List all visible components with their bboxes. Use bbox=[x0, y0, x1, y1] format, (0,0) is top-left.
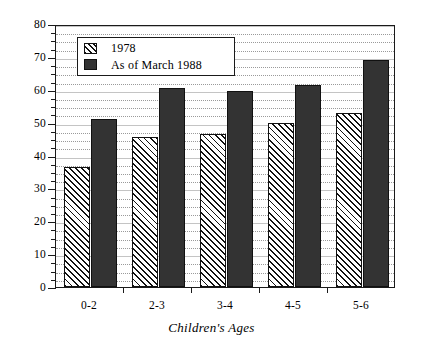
y-tick-minor bbox=[51, 214, 56, 215]
y-tick-minor bbox=[51, 239, 56, 240]
bar-0-2-1978 bbox=[64, 167, 90, 287]
y-tick-minor bbox=[51, 132, 56, 133]
y-tick-minor bbox=[51, 230, 56, 231]
y-tick-minor bbox=[51, 33, 56, 34]
y-tick-minor bbox=[51, 140, 56, 141]
y-tick-major bbox=[48, 157, 56, 158]
y-tick-minor bbox=[51, 206, 56, 207]
y-tick-label: 60 bbox=[20, 85, 46, 97]
legend-item: As of March 1988 bbox=[84, 58, 228, 73]
bar-4-5-as-of-march-1988 bbox=[295, 85, 321, 287]
y-tick-minor bbox=[51, 148, 56, 149]
y-tick-major bbox=[48, 255, 56, 256]
x-tick-label: 4-5 bbox=[285, 300, 301, 312]
chart-legend: 1978 As of March 1988 bbox=[77, 37, 235, 76]
bar-chart: Children's Ages 1978 As of March 1988 01… bbox=[0, 0, 423, 347]
y-tick-label: 80 bbox=[20, 19, 46, 31]
y-tick-label: 40 bbox=[20, 151, 46, 163]
x-tick bbox=[259, 288, 260, 293]
bar-2-3-1978 bbox=[132, 137, 158, 287]
y-tick-minor bbox=[51, 50, 56, 51]
y-tick-minor bbox=[51, 83, 56, 84]
y-tick-minor bbox=[51, 74, 56, 75]
y-tick-minor bbox=[51, 41, 56, 42]
y-tick-minor bbox=[51, 198, 56, 199]
x-tick-label: 3-4 bbox=[217, 300, 233, 312]
y-tick-minor bbox=[51, 173, 56, 174]
y-tick-major bbox=[48, 124, 56, 125]
y-tick-minor bbox=[51, 99, 56, 100]
y-tick-label: 70 bbox=[20, 52, 46, 64]
bar-3-4-1978 bbox=[200, 134, 226, 287]
y-tick-major bbox=[48, 91, 56, 92]
legend-label-1988: As of March 1988 bbox=[111, 59, 202, 71]
y-tick-major bbox=[48, 288, 56, 289]
y-tick-major bbox=[48, 189, 56, 190]
x-tick bbox=[123, 288, 124, 293]
bar-4-5-1978 bbox=[268, 123, 294, 287]
y-tick-minor bbox=[51, 280, 56, 281]
y-tick-minor bbox=[51, 66, 56, 67]
legend-swatch-1988-icon bbox=[84, 59, 97, 70]
x-tick bbox=[327, 288, 328, 293]
y-tick-minor bbox=[51, 263, 56, 264]
y-tick-major bbox=[48, 25, 56, 26]
y-tick-minor bbox=[51, 115, 56, 116]
y-tick-minor bbox=[51, 272, 56, 273]
y-tick-minor bbox=[51, 181, 56, 182]
bar-3-4-as-of-march-1988 bbox=[227, 91, 253, 287]
x-tick-label: 5-6 bbox=[353, 300, 369, 312]
bar-0-2-as-of-march-1988 bbox=[91, 119, 117, 287]
y-tick-minor bbox=[51, 165, 56, 166]
y-tick-minor bbox=[51, 247, 56, 248]
y-tick-label: 20 bbox=[20, 217, 46, 229]
x-tick-label: 0-2 bbox=[81, 300, 97, 312]
y-tick-major bbox=[48, 222, 56, 223]
legend-label-1978: 1978 bbox=[111, 42, 136, 54]
legend-swatch-1978-icon bbox=[84, 43, 97, 54]
y-tick-label: 30 bbox=[20, 184, 46, 196]
bar-5-6-as-of-march-1988 bbox=[363, 60, 389, 287]
bar-2-3-as-of-march-1988 bbox=[159, 88, 185, 287]
x-axis-title: Children's Ages bbox=[0, 320, 423, 336]
y-tick-major bbox=[48, 58, 56, 59]
x-tick bbox=[191, 288, 192, 293]
y-tick-label: 50 bbox=[20, 118, 46, 130]
y-axis bbox=[48, 25, 56, 288]
y-tick-label: 10 bbox=[20, 249, 46, 261]
y-tick-minor bbox=[51, 107, 56, 108]
y-tick-label: 0 bbox=[20, 282, 46, 294]
bar-5-6-1978 bbox=[336, 113, 362, 287]
x-tick-label: 2-3 bbox=[149, 300, 165, 312]
legend-item: 1978 bbox=[84, 41, 228, 56]
